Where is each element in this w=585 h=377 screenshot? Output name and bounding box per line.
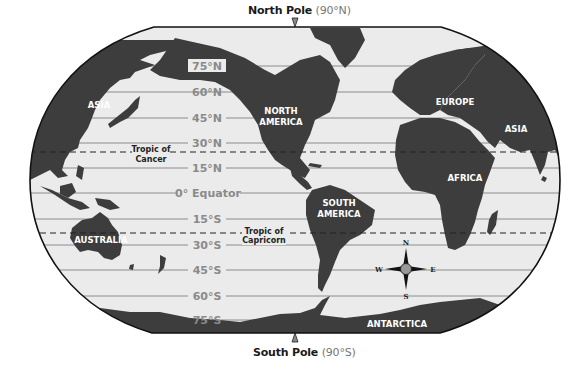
lat-label-60s: 60°S — [193, 290, 222, 303]
label-antarctica: ANTARCTICA — [367, 319, 427, 329]
lat-label-75s: 75°S — [193, 314, 222, 327]
compass-e: E — [430, 265, 435, 274]
label-south-america-2: AMERICA — [317, 209, 361, 219]
lat-label-75n: 75°N — [192, 60, 222, 73]
label-north-america-1: NORTH — [264, 106, 297, 116]
lat-label-15n: 15°N — [192, 162, 222, 175]
label-australia: AUSTRALIA — [74, 235, 128, 245]
label-north-america-2: AMERICA — [259, 117, 303, 127]
label-south-america-1: SOUTH — [322, 198, 355, 208]
label-asia-west: ASIA — [88, 100, 111, 110]
label-asia-east: ASIA — [505, 124, 528, 134]
tropic-of-capricorn-label: Tropic of Capricorn — [242, 227, 286, 245]
lat-label-45n: 45°N — [192, 112, 222, 125]
tropic-capricorn-line1: Tropic of — [245, 227, 285, 236]
south-pole-label: South Pole (90°S) — [253, 346, 356, 359]
lat-label-45s: 45°S — [193, 264, 222, 277]
compass-center — [401, 264, 412, 275]
label-europe: EUROPE — [436, 97, 475, 107]
tropic-of-cancer-label: Tropic of Cancer — [132, 145, 172, 165]
tropic-capricorn-line2: Capricorn — [242, 236, 286, 245]
lat-label-30n: 30°N — [192, 137, 222, 150]
south-pole-text: South Pole — [253, 346, 318, 359]
north-pole-marker-icon — [292, 18, 298, 27]
tropic-cancer-line1: Tropic of — [132, 145, 172, 154]
south-pole-degree: (90°S) — [322, 346, 356, 359]
lat-label-30s: 30°S — [193, 239, 222, 252]
lat-label-equator: 0° Equator — [175, 187, 241, 200]
world-map: 75°N 60°N 45°N 30°N 15°N 0° Equator 15°S… — [0, 0, 585, 377]
compass-w: W — [374, 265, 383, 274]
south-pole-marker-icon — [292, 333, 298, 342]
compass-n: N — [403, 238, 410, 247]
tropic-cancer-line2: Cancer — [135, 155, 166, 164]
compass-s: S — [403, 292, 408, 301]
lat-label-15s: 15°S — [193, 213, 222, 226]
label-africa: AFRICA — [448, 173, 483, 183]
lat-label-60n: 60°N — [192, 86, 222, 99]
